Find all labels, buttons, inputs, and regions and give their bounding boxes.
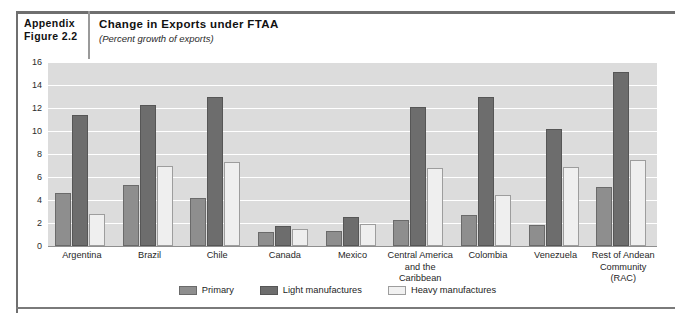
legend-swatch-icon: [260, 286, 278, 295]
bar: [495, 195, 511, 246]
bar: [563, 167, 579, 246]
y-tick-label-14: 14: [32, 80, 42, 90]
title-block: Change in Exports under FTAA (Percent gr…: [99, 17, 279, 45]
bar: [157, 166, 173, 247]
y-tick-label-6: 6: [37, 172, 42, 182]
bar: [478, 97, 494, 247]
x-axis-label: Brazil: [116, 250, 184, 285]
bar-group: [251, 62, 319, 246]
bar: [190, 198, 206, 246]
figure-number: Figure 2.2: [24, 30, 78, 43]
bar: [55, 193, 71, 246]
plot-area: [48, 62, 657, 246]
top-rule: [16, 11, 675, 14]
bar-group: [522, 62, 590, 246]
x-axis-label: Chile: [183, 250, 251, 285]
y-tick-label-2: 2: [37, 218, 42, 228]
legend-item: Light manufactures: [260, 285, 362, 295]
legend-item: Primary: [179, 285, 234, 295]
legend-swatch-icon: [388, 286, 406, 295]
bar-group: [589, 62, 657, 246]
bar: [224, 162, 240, 246]
bar: [292, 229, 308, 246]
bar: [343, 217, 359, 246]
legend-item: Heavy manufactures: [388, 285, 496, 295]
x-axis-label: Canada: [251, 250, 319, 285]
y-tick-label-10: 10: [32, 126, 42, 136]
x-axis-label: Mexico: [319, 250, 387, 285]
legend-label: Light manufactures: [283, 285, 362, 295]
bar: [258, 232, 274, 246]
y-tick-label-8: 8: [37, 149, 42, 159]
bar: [72, 115, 88, 246]
x-axis-label: Venezuela: [522, 250, 590, 285]
y-axis-ticks: 0246810121416: [0, 62, 48, 252]
chart-subtitle: (Percent growth of exports): [99, 32, 279, 45]
bar: [326, 231, 342, 246]
bar-group: [319, 62, 387, 246]
bar-group: [183, 62, 251, 246]
bar: [427, 168, 443, 246]
y-tick-label-4: 4: [37, 195, 42, 205]
bar: [596, 187, 612, 246]
x-axis-label: Argentina: [48, 250, 116, 285]
bar: [123, 185, 139, 246]
y-tick-label-16: 16: [32, 57, 42, 67]
y-tick-label-0: 0: [37, 241, 42, 251]
bar: [207, 97, 223, 247]
bar: [461, 215, 477, 246]
bottom-rule: [16, 307, 675, 309]
bar-group: [116, 62, 184, 246]
bar: [393, 220, 409, 246]
legend-label: Primary: [202, 285, 234, 295]
appendix-word: Appendix: [24, 17, 78, 30]
x-axis-labels: ArgentinaBrazilChileCanadaMexicoCentral …: [48, 250, 657, 285]
bar: [360, 224, 376, 246]
legend-swatch-icon: [179, 286, 197, 295]
bar: [410, 107, 426, 246]
plot-wrap: [48, 62, 657, 247]
bar: [529, 225, 545, 246]
bar-group: [454, 62, 522, 246]
header-divider-rule: [88, 11, 90, 59]
y-tick-label-12: 12: [32, 103, 42, 113]
bar: [630, 160, 646, 246]
legend: PrimaryLight manufacturesHeavy manufactu…: [0, 285, 675, 295]
x-axis-label: Rest of AndeanCommunity (RAC): [589, 250, 657, 285]
page-title: Change in Exports under FTAA: [99, 17, 279, 31]
bar-group: [386, 62, 454, 246]
x-axis-baseline: [48, 246, 657, 247]
bar-group: [48, 62, 116, 246]
bars-layer: [48, 62, 657, 246]
appendix-figure-label: Appendix Figure 2.2: [24, 17, 78, 43]
bar: [613, 72, 629, 246]
bar: [546, 129, 562, 246]
x-axis-label: Colombia: [454, 250, 522, 285]
x-axis-label: Central Americaand the Caribbean: [386, 250, 454, 285]
bar: [140, 105, 156, 246]
bar: [275, 226, 291, 246]
bar: [89, 214, 105, 246]
legend-label: Heavy manufactures: [411, 285, 496, 295]
